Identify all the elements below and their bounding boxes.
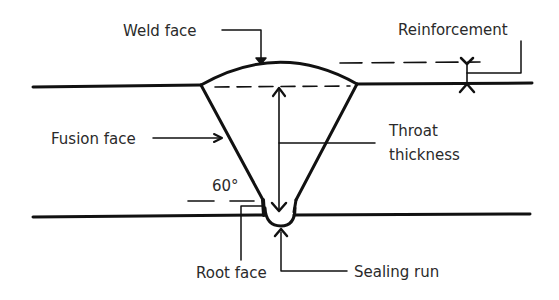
label-fusion-face: Fusion face	[51, 130, 136, 148]
label-reinforcement: Reinforcement	[398, 21, 508, 39]
top-plate-right	[357, 83, 532, 84]
reinforcement-leader	[467, 41, 521, 73]
bottom-plate-left	[33, 215, 264, 217]
weld-face-leader	[222, 30, 261, 60]
top-plate-left	[33, 85, 201, 87]
weld-drawing	[0, 0, 559, 300]
reinforcement-arrow-bottom	[460, 84, 474, 92]
plate-level-dashed	[215, 86, 350, 87]
label-weld-face: Weld face	[123, 22, 197, 40]
label-angle: 60°	[212, 177, 239, 195]
label-root-face: Root face	[196, 264, 267, 282]
reinforcement-dashed	[340, 62, 480, 63]
weld-face-curve	[201, 62, 357, 85]
fusion-face-right	[296, 84, 357, 200]
reinforcement-arrow-top	[461, 58, 473, 64]
bottom-plate-right	[294, 214, 530, 215]
label-sealing-run: Sealing run	[354, 263, 439, 281]
sealing-run-leader	[281, 232, 347, 271]
weld-diagram: Weld face Reinforcement Fusion face Thro…	[0, 0, 559, 300]
label-thickness: thickness	[389, 146, 460, 164]
label-throat: Throat	[389, 122, 438, 140]
